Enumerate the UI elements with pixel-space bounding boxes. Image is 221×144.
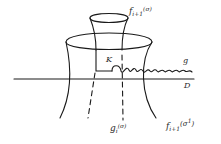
label-f-bottom: fi+1(σ1) — [166, 118, 194, 132]
label-g-i: gi(σ) — [110, 123, 126, 134]
label-g: g — [183, 57, 188, 65]
label-d: D — [184, 82, 190, 90]
outer-left-wall — [60, 42, 70, 118]
f-top-arg: (σ) — [143, 5, 152, 12]
dashed-line-gi — [122, 55, 123, 120]
outer-rim-ellipse — [66, 33, 152, 50]
wavy-curve-g — [112, 66, 192, 73]
f-top-sub: i+1 — [132, 10, 143, 17]
g-i-arg: (σ) — [118, 122, 127, 129]
f-bottom-arg-close: ) — [191, 120, 194, 128]
label-f-top: fi+1(σ) — [129, 6, 152, 17]
dashed-line-left — [88, 73, 95, 118]
cup-top-ellipse — [90, 14, 128, 23]
label-k: K — [106, 56, 112, 64]
f-bottom-sub: i+1 — [169, 125, 180, 132]
diagram-canvas: fi+1(σ) K g D gi(σ) fi+1(σ1) — [0, 0, 221, 144]
outer-right-wall — [143, 42, 156, 118]
f-bottom-arg-open: (σ — [180, 120, 188, 128]
